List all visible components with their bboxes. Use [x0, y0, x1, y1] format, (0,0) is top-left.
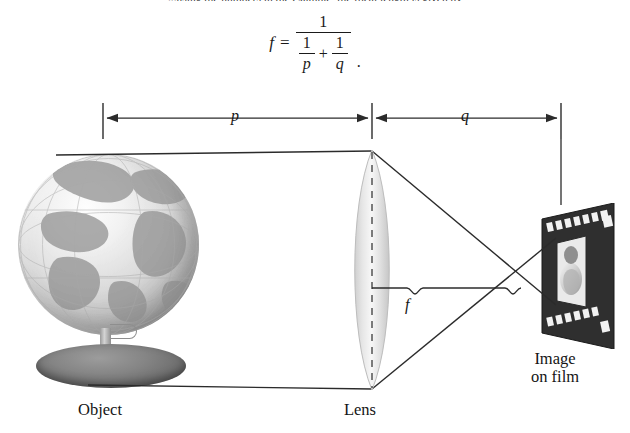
label-p: p: [231, 107, 239, 125]
caption-image-line2: on film: [495, 368, 615, 386]
label-q: q: [461, 107, 469, 125]
caption-image-line1: Image: [495, 350, 615, 368]
ray-bottom-object-to-lens: [88, 385, 372, 389]
ray-top-object-to-lens: [56, 151, 372, 155]
dimension-extension-ticks: [103, 103, 561, 139]
convex-lens: [355, 150, 390, 390]
optics-figure: ...using the numbers in the example, the…: [0, 0, 630, 433]
caption-image-on-film: Image on film: [495, 350, 615, 387]
ray-lens-top-to-film-bottom: [372, 151, 556, 305]
caption-lens: Lens: [305, 400, 415, 420]
caption-object: Object: [45, 400, 155, 420]
label-f: f: [405, 296, 409, 314]
focal-length-measure: [372, 288, 521, 294]
